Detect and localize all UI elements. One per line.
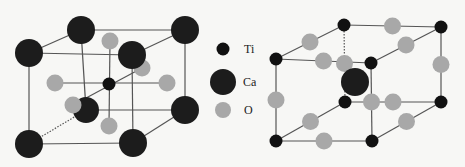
o-atom — [385, 94, 402, 111]
o-atom — [433, 56, 450, 73]
ca-atom — [119, 129, 147, 157]
o-atom — [302, 113, 319, 130]
o-atom — [102, 33, 119, 50]
o-atom — [316, 133, 333, 150]
cell-edge — [29, 143, 133, 144]
perovskite-diagram: Ti Ca O — [0, 0, 465, 167]
o-atom — [398, 113, 415, 130]
ti-atom — [103, 78, 116, 91]
legend-item-o: O — [215, 102, 253, 118]
ti-atom — [270, 53, 283, 66]
legend-ti-label: Ti — [244, 42, 255, 56]
ti-atom — [366, 135, 379, 148]
ca-atom — [15, 130, 43, 158]
ti-atom — [338, 19, 351, 32]
o-atom — [363, 94, 380, 111]
o-atom — [101, 118, 118, 135]
o-atom — [65, 97, 82, 114]
crystal-structure-figure: Ti Ca O — [0, 0, 465, 167]
legend-ca-atom — [210, 69, 236, 95]
o-atom — [398, 37, 415, 54]
ti-corner-unit-cell — [268, 18, 450, 150]
o-atom — [268, 92, 285, 109]
o-atom — [384, 18, 401, 35]
legend: Ti Ca O — [210, 42, 257, 118]
ca-atom — [341, 68, 369, 96]
legend-item-ca: Ca — [210, 69, 257, 95]
ti-atom — [339, 96, 352, 109]
legend-ti-atom — [217, 43, 230, 56]
legend-o-atom — [215, 102, 231, 118]
legend-o-label: O — [244, 103, 253, 117]
ti-atom — [270, 135, 283, 148]
ti-atom — [435, 96, 448, 109]
o-atom — [302, 34, 319, 51]
ti-atom — [435, 21, 448, 34]
ti-atom — [365, 57, 378, 70]
o-atom — [159, 75, 176, 92]
ca-atom — [15, 39, 43, 67]
ca-atom — [118, 41, 146, 69]
o-atom — [47, 75, 64, 92]
ca-corner-unit-cell — [15, 16, 199, 158]
ca-atom — [67, 16, 95, 44]
ca-atom — [171, 96, 199, 124]
cell-edge — [29, 53, 132, 55]
ca-atom — [171, 16, 199, 44]
legend-item-ti: Ti — [217, 42, 255, 56]
legend-ca-label: Ca — [243, 75, 257, 89]
o-atom — [315, 53, 332, 70]
